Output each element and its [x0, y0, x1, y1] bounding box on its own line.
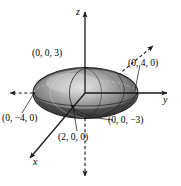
- label-point-right: (0, 4, 0): [128, 59, 158, 69]
- label-point-bottom: (0, 0, −3): [108, 116, 143, 126]
- leader-pos-y: [135, 65, 140, 90]
- axis-label-x: x: [33, 157, 37, 167]
- label-point-front: (2, 0, 0): [58, 133, 88, 143]
- ellipsoid-diagram-svg: [0, 0, 181, 186]
- label-point-left: (0, −4, 0): [2, 114, 37, 124]
- leader-neg-y: [22, 94, 34, 113]
- label-point-top: (0, 0, 3): [32, 49, 62, 59]
- axis-label-z: z: [76, 7, 80, 17]
- axis-label-y: y: [163, 95, 167, 105]
- ellipsoid-figure: (0, 0, 3) (0, 4, 0) (0, −4, 0) (0, 0, −3…: [0, 0, 181, 186]
